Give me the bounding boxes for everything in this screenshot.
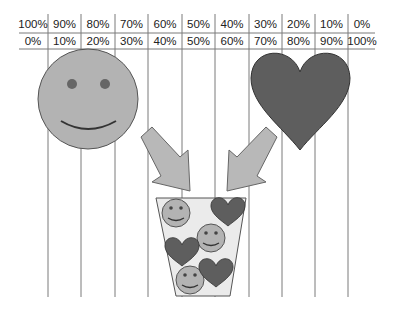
bottom-row-labels: 0% 10% 20% 30% 40% 50% 60% 70% 80% 90% 1… (25, 35, 377, 47)
svg-text:40%: 40% (220, 18, 243, 30)
svg-text:90%: 90% (320, 35, 343, 47)
svg-text:80%: 80% (86, 18, 109, 30)
top-row-labels: 100% 90% 80% 70% 60% 50% 40% 30% 20% 10%… (18, 18, 370, 30)
svg-text:30%: 30% (120, 35, 143, 47)
svg-text:60%: 60% (220, 35, 243, 47)
small-smiley-icon (162, 199, 190, 227)
svg-text:50%: 50% (187, 35, 210, 47)
svg-text:10%: 10% (320, 18, 343, 30)
mixing-cup (156, 198, 246, 296)
svg-text:30%: 30% (254, 18, 277, 30)
svg-text:80%: 80% (287, 35, 310, 47)
svg-text:0%: 0% (354, 18, 371, 30)
smiley-face-icon (38, 49, 138, 149)
svg-text:10%: 10% (53, 35, 76, 47)
svg-text:40%: 40% (153, 35, 176, 47)
svg-text:20%: 20% (287, 18, 310, 30)
svg-text:70%: 70% (254, 35, 277, 47)
svg-text:60%: 60% (153, 18, 176, 30)
svg-text:70%: 70% (120, 18, 143, 30)
svg-text:0%: 0% (25, 35, 42, 47)
svg-text:20%: 20% (86, 35, 109, 47)
small-smiley-icon (197, 224, 225, 252)
svg-text:90%: 90% (53, 18, 76, 30)
svg-text:50%: 50% (187, 18, 210, 30)
arrow-down-left-icon (227, 127, 277, 191)
svg-text:100%: 100% (18, 18, 47, 30)
svg-text:100%: 100% (347, 35, 376, 47)
mixing-diagram: 100% 90% 80% 70% 60% 50% 40% 30% 20% 10%… (0, 0, 396, 311)
